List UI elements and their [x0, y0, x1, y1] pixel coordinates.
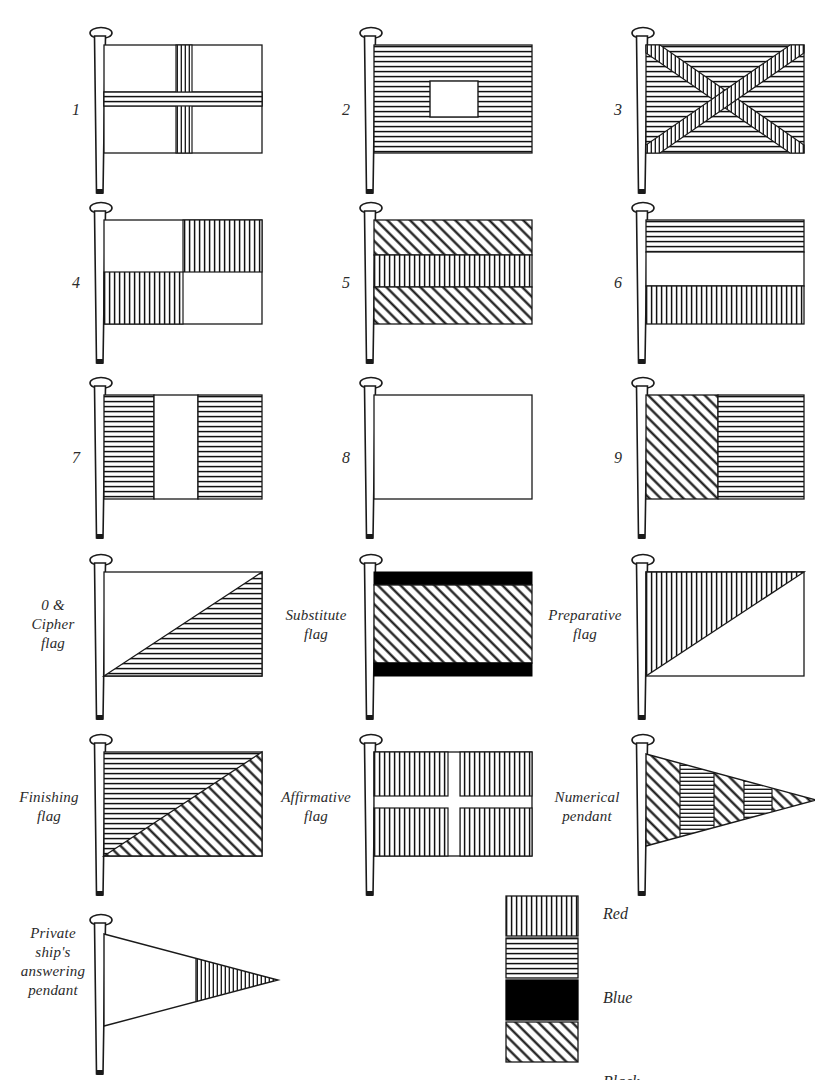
flag-cell-5: 5 — [272, 178, 544, 353]
flag-cell-0-cipher: 0 & Cipher flag — [0, 528, 272, 708]
flag-body-6 — [646, 220, 804, 324]
flag-label-substitute: Substitute flag — [264, 606, 368, 644]
signal-flag-chart: 1 — [0, 0, 815, 1080]
flag-body-7 — [104, 395, 262, 499]
flag-cell-7: 7 — [0, 353, 272, 528]
flag-label-affirmative: Affirmative flag — [264, 788, 368, 826]
flag-cell-1: 1 — [0, 0, 272, 178]
flag-body-preparative — [646, 572, 804, 676]
flag-cell-preparative: Preparative flag — [544, 528, 815, 708]
flag-body-0-cipher — [104, 572, 262, 676]
legend: Red Blue Black Yellow — [505, 895, 805, 1075]
flag-cell-3: 3 — [544, 0, 815, 178]
flag-body-finishing — [104, 752, 262, 856]
flag-body-numerical-pendant — [646, 752, 815, 848]
flag-body-affirmative — [374, 752, 532, 856]
flag-cell-2: 2 — [272, 0, 544, 178]
legend-row-blue: Blue — [505, 937, 579, 979]
flag-label-numerical-pendant: Numerical pendant — [534, 788, 640, 826]
flag-cell-6: 6 — [544, 178, 815, 353]
legend-label-blue: Blue — [603, 989, 632, 1007]
flag-graphic-private-ship-answering-pendant — [88, 896, 288, 1080]
flag-cell-substitute: Substitute flag — [272, 528, 544, 708]
flag-graphic-affirmative — [358, 732, 548, 912]
flag-cell-4: 4 — [0, 178, 272, 353]
flag-cell-9: 9 — [544, 353, 815, 528]
flag-cell-private-ship-answering-pendant: Private ship's answering pendant — [0, 886, 300, 1080]
legend-swatch-black — [505, 979, 579, 1021]
flag-graphic-numerical-pendant — [630, 732, 815, 912]
flag-body-private-ship-answering-pendant — [104, 926, 288, 1036]
legend-label-black: Black — [603, 1073, 639, 1080]
flag-body-9 — [646, 395, 804, 499]
legend-swatch-blue — [505, 937, 579, 979]
legend-swatch-red — [505, 895, 579, 937]
flag-graphic-finishing — [88, 732, 278, 912]
flag-body-5 — [374, 220, 532, 324]
legend-label-red: Red — [603, 905, 628, 923]
flag-body-4 — [104, 220, 262, 324]
legend-row-red: Red — [505, 895, 579, 937]
legend-row-black: Black — [505, 979, 579, 1021]
flag-cell-8: 8 — [272, 353, 544, 528]
legend-swatch-yellow — [505, 1021, 579, 1063]
flag-body-2 — [374, 45, 532, 153]
flag-body-substitute — [374, 572, 532, 676]
flag-body-8 — [374, 395, 532, 499]
flag-label-0-cipher: 0 & Cipher flag — [10, 596, 96, 653]
flag-cell-affirmative: Affirmative flag — [272, 708, 544, 886]
flag-label-finishing: Finishing flag — [2, 788, 96, 826]
flag-label-preparative: Preparative flag — [530, 606, 640, 644]
flag-body-3 — [646, 45, 804, 153]
flag-body-1 — [104, 45, 262, 153]
flag-cell-finishing: Finishing flag — [0, 708, 272, 886]
flag-cell-numerical-pendant: Numerical pendant — [544, 708, 815, 886]
legend-row-yellow: Yellow — [505, 1021, 579, 1063]
